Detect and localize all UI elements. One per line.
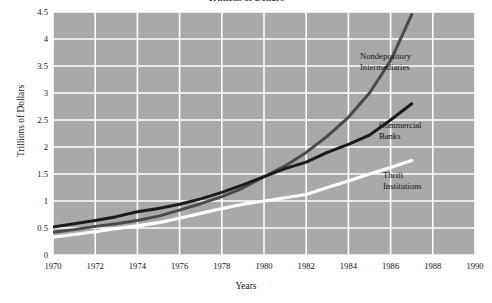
y-axis-tick-label: 0.5	[6, 223, 48, 233]
x-axis-tick-label: 1984	[326, 261, 370, 271]
y-axis-tick-label: 2	[6, 142, 48, 152]
series-label-line-2: Institutions	[383, 181, 422, 192]
y-axis-tick-label: 4	[6, 34, 48, 44]
chart-container: Trillions of Dollars 00.511.522.533.544.…	[0, 0, 492, 303]
y-axis-label: Trillions of Dollars	[16, 56, 26, 186]
y-axis-tick-label: 1	[6, 196, 48, 206]
series-label-line-2: Intermediaries	[360, 62, 411, 73]
y-axis-tick-label: 3	[6, 88, 48, 98]
x-axis-tick-label: 1978	[200, 261, 244, 271]
x-axis-tick-label: 1972	[73, 261, 117, 271]
x-axis-tick-label: 1974	[115, 261, 159, 271]
x-axis-tick-label: 1988	[411, 261, 455, 271]
series-label-line-1: Thrift	[383, 170, 422, 181]
series-label-line-2: Banks	[379, 131, 421, 142]
series-label-line-1: Commercial	[379, 120, 421, 131]
series-label-commercial-banks: Commercial Banks	[379, 120, 421, 141]
series-label-nondepository-intermediaries: Nondepository Intermediaries	[360, 51, 411, 72]
y-axis-tick-label: 2.5	[6, 115, 48, 125]
x-axis-tick-label: 1976	[158, 261, 202, 271]
y-axis-tick-label: 4.5	[6, 7, 48, 17]
y-axis-tick-label: 0	[6, 250, 48, 260]
series-label-thrift-institutions: Thrift Institutions	[383, 170, 422, 191]
x-axis-tick-label: 1970	[31, 261, 75, 271]
x-axis-tick-label: 1980	[242, 261, 286, 271]
series-label-line-1: Nondepository	[360, 51, 411, 62]
y-axis-tick-label: 1.5	[6, 169, 48, 179]
y-axis-tick-label: 3.5	[6, 61, 48, 71]
x-axis-tick-label: 1990	[453, 261, 492, 271]
x-axis-tick-label: 1982	[284, 261, 328, 271]
x-axis-label: Years	[0, 281, 492, 291]
x-axis-tick-label: 1986	[369, 261, 413, 271]
y-axis-ticks: 00.511.522.533.544.5	[0, 0, 492, 303]
